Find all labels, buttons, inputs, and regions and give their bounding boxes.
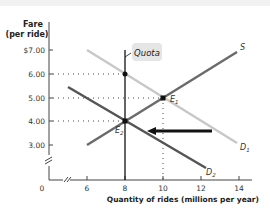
e1-label: E1: [170, 95, 179, 105]
quota-price-point: [123, 72, 128, 77]
e2-label: E2: [115, 126, 124, 136]
y-axis-label-line2: (per ride): [5, 30, 48, 39]
x-axis-label: Quantity of rides (millions per year): [107, 195, 259, 204]
x-tick-12: 12: [196, 184, 206, 193]
demand-curve-d2: [68, 87, 206, 168]
y-axis-label-line1: Fare: [23, 20, 43, 29]
supply-label: S: [240, 43, 245, 52]
d2-label: D2: [206, 168, 216, 178]
y-tick-5: 5.00: [28, 94, 45, 103]
x-tick-14: 14: [234, 184, 244, 193]
x-tick-0: 0: [40, 184, 45, 193]
x-tick-8: 8: [123, 184, 128, 193]
x-tick-10: 10: [158, 184, 168, 193]
y-tick-7: $7.00: [24, 46, 46, 55]
point-e1: [161, 96, 166, 101]
y-tick-4: 4.00: [28, 117, 45, 126]
y-axis-break-icon: [45, 157, 52, 164]
quota-chart: Fare (per ride) $7.00 6.00 5.00 4.00 3.0…: [0, 0, 270, 208]
x-tick-6: 6: [85, 184, 90, 193]
quota-label: Quota: [134, 48, 160, 58]
quota-label-leader: [125, 53, 131, 57]
d1-label: D1: [240, 143, 250, 153]
x-axis-break-icon: [64, 177, 71, 182]
y-tick-3: 3.00: [28, 141, 45, 150]
point-e2: [123, 119, 128, 124]
y-tick-6: 6.00: [28, 70, 45, 79]
